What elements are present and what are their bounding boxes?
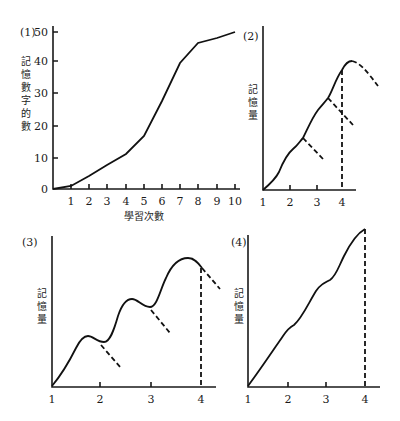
panel-1-ylabel-char: 數 [21,120,31,132]
panel-4-ylabel-char: 記 [234,287,244,299]
x-tick: 6 [159,195,166,208]
x-tick: 1 [49,393,56,406]
panel-2-ylabel-char: 憶 [248,96,258,108]
panel-2-axes [263,26,356,190]
panel-1-ylabel-char: 記 [21,55,31,67]
x-tick: 4 [198,393,205,406]
panel-4-label: (4) [231,236,247,249]
panel-4-curve [248,229,365,386]
panel-2-decline [352,61,378,86]
x-tick: 7 [177,195,184,208]
panel-4-ylabel-char: 量 [234,314,244,325]
y-tick: 10 [34,152,48,165]
x-tick: 9 [214,195,221,208]
x-tick: 4 [123,195,130,208]
panel-2-forget-2 [328,98,353,125]
panel-3-curve [52,258,202,386]
x-tick: 1 [260,196,267,209]
x-tick: 2 [86,195,93,208]
x-tick: 3 [148,393,155,406]
panel-2-ylabel-char: 量 [248,110,258,121]
panel-3-chart: (3) 記 憶 量 1 2 3 4 [22,236,220,406]
x-tick: 3 [323,393,330,406]
x-tick: 3 [314,196,321,209]
y-tick: 0 [41,183,48,196]
y-tick: 50 [34,26,48,39]
figure: (1) 記 憶 數 字 的 數 50 40 30 20 10 0 1 2 3 4… [0,0,400,421]
panel-1-y-ticks: 50 40 30 20 10 0 [34,26,58,196]
x-tick: 2 [97,393,104,406]
panel-1-ylabel-char: 字 [21,94,31,106]
y-tick: 40 [34,55,48,68]
x-tick: 10 [228,195,242,208]
panel-3-decline [202,268,220,289]
y-tick: 30 [34,87,48,100]
x-tick: 4 [362,393,369,406]
x-tick: 5 [141,195,148,208]
x-tick: 1 [68,195,75,208]
panel-4-ylabel-char: 憶 [234,300,244,312]
x-tick: 4 [339,196,346,209]
panel-1-x-ticks: 1 2 3 4 5 6 7 8 9 10 [68,195,243,208]
x-tick: 2 [287,196,294,209]
panel-3-ylabel-char: 量 [37,314,47,325]
x-tick: 2 [285,393,292,406]
panel-3-label: (3) [22,236,38,249]
panel-1-axes [53,26,240,189]
panel-3-forget-1 [101,345,121,368]
x-tick: 8 [195,195,202,208]
panel-3-ylabel-char: 記 [37,287,47,299]
panel-2-label: (2) [243,30,259,43]
x-tick: 1 [245,393,252,406]
panel-2-chart: (2) 記 憶 量 1 2 3 4 [243,26,378,209]
y-tick: 20 [34,120,48,133]
panel-2-forget-1 [303,138,323,159]
panel-1-ylabel-char: 數 [21,81,31,93]
panel-1-chart: (1) 記 憶 數 字 的 數 50 40 30 20 10 0 1 2 3 4… [20,26,242,222]
panel-1-xlabel: 學習次數 [124,210,164,222]
panel-1-ylabel-char: 憶 [21,68,31,80]
panel-3-forget-2 [151,310,170,333]
x-tick: 3 [104,195,111,208]
panel-2-ylabel-char: 記 [248,83,258,95]
panel-3-ylabel-char: 憶 [37,300,47,312]
panel-4-chart: (4) 記 憶 量 1 2 3 4 [231,229,380,406]
panel-2-curve [263,61,352,190]
panel-4-axes [248,235,380,387]
panel-1-ylabel-char: 的 [21,107,31,119]
panel-1-curve [53,32,235,189]
